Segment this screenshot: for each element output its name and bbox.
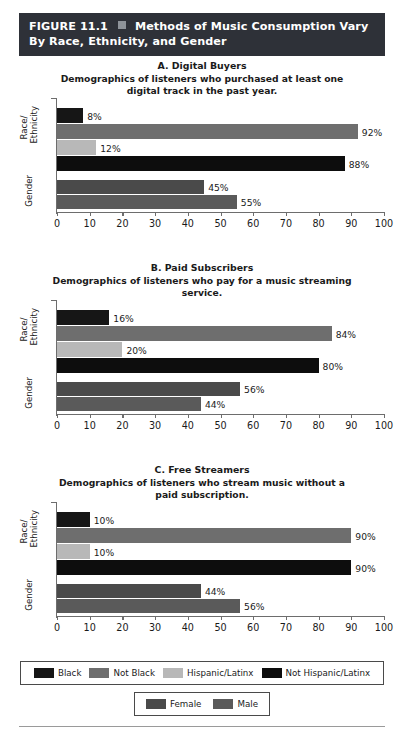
- bar-B-not-hispanic-latinx: [57, 358, 319, 373]
- y-group-label-race-ethnicity: Race/ Ethnicity: [14, 118, 46, 137]
- y-group-label-gender: Gender: [14, 388, 46, 398]
- legend-race-ethnicity: BlackNot BlackHispanic/LatinxNot Hispani…: [20, 661, 384, 685]
- x-axis-tick: [253, 414, 254, 418]
- legend-label: Not Hispanic/Latinx: [286, 668, 371, 678]
- x-axis-tick: [351, 212, 352, 216]
- x-axis-tick-label: 60: [247, 420, 259, 431]
- x-axis-tick-label: 50: [214, 420, 226, 431]
- x-axis-tick: [384, 414, 385, 418]
- bar-A-female: [57, 180, 204, 194]
- bar-value-label: 90%: [351, 530, 375, 541]
- legend-label: Male: [237, 699, 258, 709]
- bar-value-label: 16%: [109, 312, 133, 323]
- x-axis-tick-label: 10: [84, 218, 96, 229]
- bar-value-label: 10%: [90, 546, 114, 557]
- bar-value-label: 56%: [240, 384, 264, 395]
- bar-value-label: 10%: [90, 514, 114, 525]
- x-axis-tick: [319, 414, 320, 418]
- x-axis-line: 0102030405060708090100: [57, 414, 384, 415]
- x-axis-tick: [253, 212, 254, 216]
- chart-title-A: A. Digital Buyers: [0, 60, 404, 71]
- y-group-label-gender: Gender: [14, 186, 46, 196]
- bar-A-not-hispanic-latinx: [57, 156, 345, 171]
- plot-area-B: Race/ EthnicityGender16%84%20%80%56%44%0…: [0, 302, 404, 430]
- x-axis-tick-label: 50: [214, 218, 226, 229]
- x-axis-tick: [286, 212, 287, 216]
- bar-A-hispanic-latinx: [57, 140, 96, 155]
- bar-value-label: 12%: [96, 142, 120, 153]
- bar-row: 10%: [57, 544, 384, 559]
- x-axis-tick: [122, 414, 123, 418]
- bar-row: 90%: [57, 560, 384, 575]
- legend-swatch-not-hispanic-latinx: [262, 668, 282, 678]
- bar-row: 45%: [57, 180, 384, 194]
- bar-value-label: 56%: [240, 601, 264, 612]
- bar-A-black: [57, 108, 83, 123]
- bar-row: 56%: [57, 599, 384, 613]
- x-axis-tick-label: 10: [84, 622, 96, 633]
- x-axis-tick: [384, 616, 385, 620]
- x-axis-tick: [384, 212, 385, 216]
- chart-subtitle-C: Demographics of listeners who stream mus…: [0, 477, 404, 500]
- x-axis-tick-label: 10: [84, 420, 96, 431]
- x-axis-tick-label: 30: [149, 622, 161, 633]
- chart-panel-B: B. Paid SubscribersDemographics of liste…: [0, 262, 404, 430]
- bar-A-not-black: [57, 124, 358, 139]
- chart-subtitle-A: Demographics of listeners who purchased …: [0, 73, 404, 96]
- x-axis-tick-label: 40: [182, 218, 194, 229]
- x-axis-tick-label: 90: [345, 218, 357, 229]
- bar-B-male: [57, 397, 201, 411]
- y-axis-cap: [51, 502, 57, 503]
- bar-value-label: 44%: [201, 586, 225, 597]
- legend-swatch-female: [146, 699, 166, 709]
- bar-row: 44%: [57, 584, 384, 598]
- x-axis-tick-label: 100: [375, 622, 393, 633]
- bar-value-label: 20%: [122, 344, 146, 355]
- legend-race-item: Not Black: [89, 668, 155, 678]
- y-axis-cap: [51, 98, 57, 99]
- bar-value-label: 92%: [358, 126, 382, 137]
- bar-row: 88%: [57, 156, 384, 171]
- x-axis-tick-label: 80: [312, 622, 324, 633]
- bars-area: 8%92%12%88%45%55%: [57, 100, 384, 212]
- x-axis-tick-label: 20: [116, 622, 128, 633]
- figure-number: FIGURE 11.1: [29, 20, 108, 33]
- bar-value-label: 45%: [204, 182, 228, 193]
- x-axis-tick: [221, 212, 222, 216]
- x-axis-tick: [286, 414, 287, 418]
- x-axis-tick-label: 60: [247, 622, 259, 633]
- x-axis-tick: [253, 616, 254, 620]
- bar-B-black: [57, 310, 109, 325]
- y-group-label-gender: Gender: [14, 590, 46, 600]
- chart-subtitle-B: Demographics of listeners who pay for a …: [0, 275, 404, 298]
- x-axis-tick: [122, 616, 123, 620]
- x-axis-tick: [188, 212, 189, 216]
- x-axis-tick: [319, 212, 320, 216]
- bar-row: 10%: [57, 512, 384, 527]
- bar-row: 8%: [57, 108, 384, 123]
- legend-gender-item: Female: [146, 699, 201, 709]
- bar-B-hispanic-latinx: [57, 342, 122, 357]
- bar-row: 44%: [57, 397, 384, 411]
- legend-label: Black: [58, 668, 82, 678]
- bar-C-black: [57, 512, 90, 527]
- x-axis-tick: [57, 616, 58, 620]
- bar-A-male: [57, 195, 237, 209]
- x-axis-tick: [188, 616, 189, 620]
- bar-row: 16%: [57, 310, 384, 325]
- x-axis-tick: [155, 414, 156, 418]
- chart-title-B: B. Paid Subscribers: [0, 262, 404, 273]
- x-axis-tick-label: 70: [280, 622, 292, 633]
- x-axis-tick: [57, 414, 58, 418]
- x-axis-tick-label: 0: [54, 622, 60, 633]
- x-axis-tick-label: 20: [116, 420, 128, 431]
- bar-B-not-black: [57, 326, 332, 341]
- y-group-label-race-ethnicity: Race/ Ethnicity: [14, 522, 46, 541]
- bars-area: 16%84%20%80%56%44%: [57, 302, 384, 414]
- legend-label: Hispanic/Latinx: [187, 668, 254, 678]
- legend-swatch-not-black: [89, 668, 109, 678]
- chart-title-C: C. Free Streamers: [0, 464, 404, 475]
- x-axis-tick: [155, 212, 156, 216]
- x-axis-tick-label: 30: [149, 218, 161, 229]
- x-axis-tick: [221, 616, 222, 620]
